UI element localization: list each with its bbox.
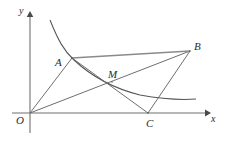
x-axis-label: x — [211, 114, 215, 124]
geometry-figure: A B C M O x y — [0, 0, 228, 141]
point-label-B: B — [194, 41, 201, 52]
point-B-marker — [189, 50, 190, 51]
point-A-marker — [71, 57, 72, 58]
point-C-marker — [147, 112, 148, 113]
segment-AB — [72, 51, 190, 58]
origin-label-O: O — [16, 115, 24, 126]
hyperbola-branch — [50, 20, 196, 99]
curve-group — [50, 20, 196, 99]
y-axis-label: y — [19, 6, 23, 16]
vertex-markers — [71, 50, 190, 113]
point-label-C: C — [146, 118, 153, 129]
segment-AC — [72, 58, 148, 113]
segments-group — [30, 51, 190, 113]
point-label-A: A — [55, 57, 62, 68]
point-label-M: M — [108, 69, 117, 80]
segment-BC — [148, 51, 190, 113]
y-axis-arrowhead — [27, 11, 34, 17]
point-M-marker — [111, 81, 112, 82]
